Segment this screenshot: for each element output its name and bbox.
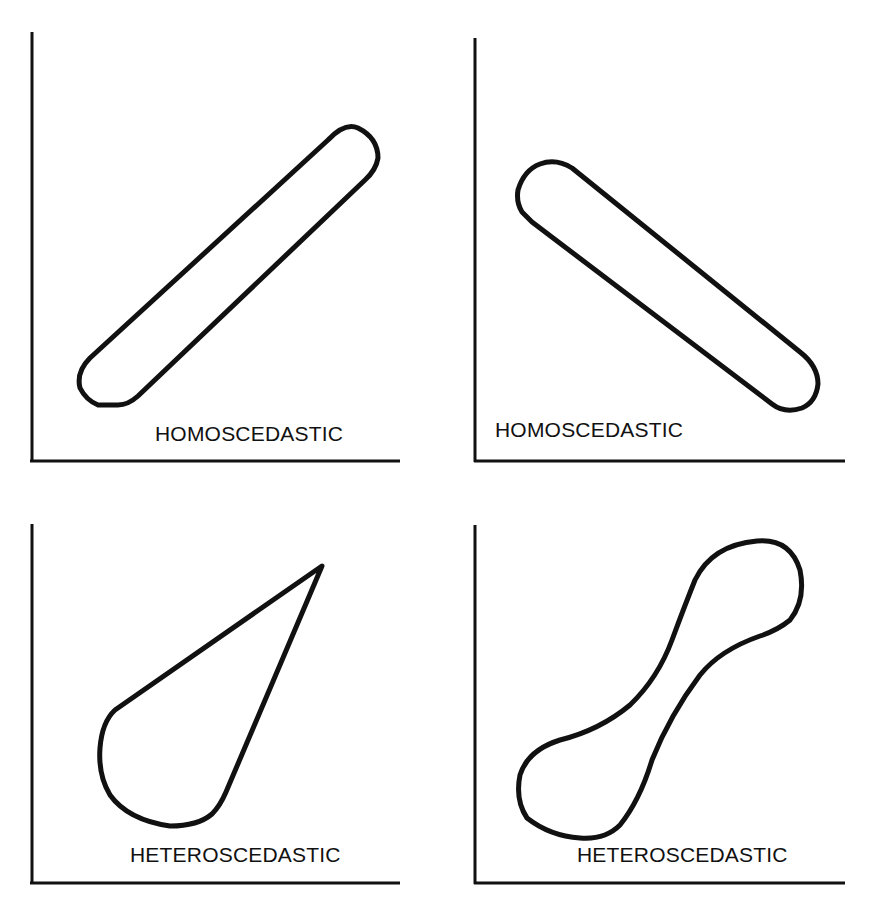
panel-top-left <box>30 32 400 462</box>
scatter-envelope-diagrams <box>0 0 873 909</box>
heteroscedastic-teardrop-envelope <box>100 566 322 826</box>
panel-bottom-right <box>474 525 845 884</box>
panel-label-top-left: HOMOSCEDASTIC <box>155 422 343 446</box>
homoscedastic-positive-envelope <box>79 127 378 406</box>
homoscedastic-negative-envelope <box>518 162 819 411</box>
panel-bottom-left <box>30 524 400 884</box>
panel-top-right <box>474 38 845 462</box>
panel-label-bottom-right: HETEROSCEDASTIC <box>577 843 788 867</box>
panel-label-top-right: HOMOSCEDASTIC <box>495 418 683 442</box>
panel-label-bottom-left: HETEROSCEDASTIC <box>130 843 341 867</box>
heteroscedastic-dumbbell-envelope <box>519 541 802 838</box>
